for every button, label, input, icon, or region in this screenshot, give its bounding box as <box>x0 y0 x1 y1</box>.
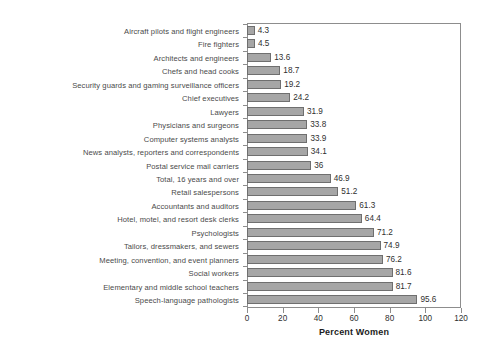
category-label: Tailors, dressmakers, and sewers <box>124 240 239 253</box>
bar-row: 64.4 <box>247 212 461 225</box>
bar <box>247 80 281 89</box>
category-label: Accountants and auditors <box>151 200 239 213</box>
bar-row: 74.9 <box>247 239 461 252</box>
bar-row: 19.2 <box>247 78 461 91</box>
bar-value-label: 95.6 <box>417 293 436 306</box>
bar <box>247 147 308 156</box>
bar <box>247 228 374 237</box>
bar <box>247 174 331 183</box>
category-label-column: Aircraft pilots and flight engineersFire… <box>0 25 243 308</box>
bar <box>247 187 338 196</box>
x-axis-tick <box>354 308 355 313</box>
bar-value-label: 76.2 <box>383 253 402 266</box>
category-label: Total, 16 years and over <box>156 173 239 186</box>
bar-value-label: 33.8 <box>307 118 326 131</box>
x-axis-tick-label: 0 <box>245 314 250 323</box>
bar-value-label: 18.7 <box>280 64 299 77</box>
category-label: Elementary and middle school teachers <box>103 281 239 294</box>
bar <box>247 214 362 223</box>
x-axis-title: Percent Women <box>247 327 461 337</box>
category-label: Retail salespersons <box>171 186 239 199</box>
category-label: Lawyers <box>210 106 239 119</box>
bar-row: 24.2 <box>247 91 461 104</box>
x-axis-tick-label: 60 <box>349 314 358 323</box>
bar <box>247 26 255 35</box>
bar <box>247 107 304 116</box>
x-axis-tick-label: 40 <box>314 314 323 323</box>
bar-row: 71.2 <box>247 226 461 239</box>
bar-row: 34.1 <box>247 145 461 158</box>
bar-value-label: 4.3 <box>255 24 269 37</box>
bar <box>247 268 393 277</box>
bar-row: 46.9 <box>247 172 461 185</box>
bar <box>247 134 307 143</box>
x-axis-tick <box>425 308 426 313</box>
bar-row: 13.6 <box>247 51 461 64</box>
x-axis-tick <box>283 308 284 313</box>
x-axis-tick-label: 20 <box>278 314 287 323</box>
percent-women-bar-chart: Aircraft pilots and flight engineersFire… <box>0 0 488 355</box>
bar <box>247 66 280 75</box>
bar <box>247 161 311 170</box>
x-axis-tick <box>318 308 319 313</box>
category-label: Fire fighters <box>198 38 239 51</box>
bar-row: 81.7 <box>247 280 461 293</box>
bar-row: 33.9 <box>247 132 461 145</box>
bar <box>247 93 290 102</box>
category-label: Aircraft pilots and flight engineers <box>124 25 239 38</box>
bar-value-label: 19.2 <box>281 78 300 91</box>
bar-value-label: 13.6 <box>271 51 290 64</box>
bar-row: 31.9 <box>247 105 461 118</box>
bar-value-label: 31.9 <box>304 105 323 118</box>
bar-value-label: 64.4 <box>362 212 381 225</box>
x-axis-tick-label: 100 <box>418 314 432 323</box>
category-label: Social workers <box>189 267 239 280</box>
x-axis-tick <box>390 308 391 313</box>
bar-value-label: 51.2 <box>338 185 357 198</box>
bar-value-label: 71.2 <box>374 226 393 239</box>
category-label: Security guards and gaming surveillance … <box>72 79 239 92</box>
category-label: Meeting, convention, and event planners <box>99 254 239 267</box>
bar <box>247 39 255 48</box>
bar-value-label: 34.1 <box>308 145 327 158</box>
bar-value-label: 46.9 <box>331 172 350 185</box>
bar-row: 33.8 <box>247 118 461 131</box>
category-label: News analysts, reporters and corresponde… <box>83 146 239 159</box>
bar-row: 36 <box>247 159 461 172</box>
bar-row: 61.3 <box>247 199 461 212</box>
bar-row: 4.3 <box>247 24 461 37</box>
bar-row: 4.5 <box>247 37 461 50</box>
x-axis-tick-label: 80 <box>385 314 394 323</box>
x-axis-tick <box>461 308 462 313</box>
bars-layer: 4.34.513.618.719.224.231.933.833.934.136… <box>247 23 461 308</box>
bar <box>247 53 271 62</box>
bar-row: 95.6 <box>247 293 461 306</box>
bar-row: 51.2 <box>247 185 461 198</box>
bar-value-label: 81.6 <box>393 266 412 279</box>
category-label: Chefs and head cooks <box>162 65 239 78</box>
bar <box>247 201 356 210</box>
bar-value-label: 81.7 <box>393 280 412 293</box>
bar-value-label: 4.5 <box>255 37 269 50</box>
bar-value-label: 74.9 <box>381 239 400 252</box>
bar <box>247 120 307 129</box>
x-axis-tick-label: 120 <box>454 314 468 323</box>
bar <box>247 295 417 304</box>
bar-value-label: 61.3 <box>356 199 375 212</box>
category-label: Chief executives <box>182 92 239 105</box>
category-label: Physicians and surgeons <box>153 119 239 132</box>
bar <box>247 241 381 250</box>
category-label: Speech-language pathologists <box>135 294 239 307</box>
bar-row: 81.6 <box>247 266 461 279</box>
category-label: Postal service mail carriers <box>146 160 239 173</box>
bar <box>247 282 393 291</box>
category-label: Psychologists <box>192 227 239 240</box>
category-label: Hotel, motel, and resort desk clerks <box>117 213 239 226</box>
category-label: Architects and engineers <box>154 52 239 65</box>
category-label: Computer systems analysts <box>144 133 239 146</box>
bar-row: 76.2 <box>247 253 461 266</box>
bar <box>247 255 383 264</box>
bar-row: 18.7 <box>247 64 461 77</box>
bar-value-label: 24.2 <box>290 91 309 104</box>
x-axis-tick <box>247 308 248 313</box>
